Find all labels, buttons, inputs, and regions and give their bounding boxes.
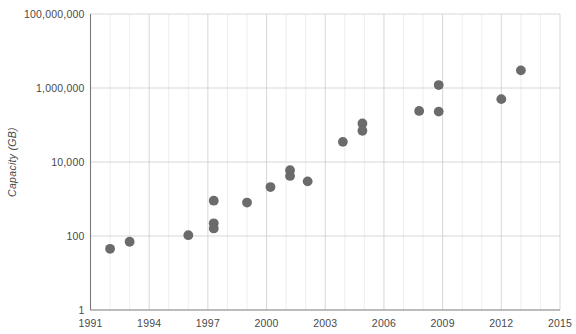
scatter-point (105, 244, 115, 254)
y-axis-tick-labels: 110010,0001,000,000100,000,000 (24, 8, 85, 316)
x-tick-label: 2009 (431, 317, 455, 329)
scatter-point (358, 126, 368, 136)
y-tick-label: 1,000,000 (36, 82, 85, 94)
scatter-point (516, 65, 526, 75)
capacity-scatter-chart: 110010,0001,000,000100,000,000 199119941… (0, 0, 576, 334)
scatter-point (209, 224, 219, 234)
chart-canvas: 110010,0001,000,000100,000,000 199119941… (0, 0, 576, 334)
x-tick-label: 2012 (489, 317, 513, 329)
scatter-point (434, 107, 444, 117)
scatter-point (242, 198, 252, 208)
y-axis-title: Capacity (GB) (6, 127, 18, 197)
x-axis-tick-labels: 199119941997200020032006200920122015 (78, 317, 572, 329)
y-tick-label: 100 (66, 230, 84, 242)
x-tick-label: 2006 (372, 317, 396, 329)
major-gridlines (91, 14, 561, 310)
x-tick-label: 2015 (548, 317, 572, 329)
scatter-point (209, 196, 219, 206)
scatter-point (285, 171, 295, 181)
scatter-point (303, 176, 313, 186)
scatter-point (125, 237, 135, 247)
x-tick-label: 2000 (254, 317, 278, 329)
scatter-point (434, 80, 444, 90)
data-points (105, 65, 526, 253)
x-tick-label: 2003 (313, 317, 337, 329)
x-tick-label: 1997 (196, 317, 220, 329)
scatter-point (183, 230, 193, 240)
scatter-point (414, 106, 424, 116)
scatter-point (266, 182, 276, 192)
y-tick-label: 100,000,000 (24, 8, 85, 20)
y-tick-label: 1 (78, 304, 84, 316)
y-tick-label: 10,000 (51, 156, 84, 168)
x-tick-label: 1994 (137, 317, 161, 329)
scatter-point (338, 137, 348, 147)
x-tick-label: 1991 (78, 317, 102, 329)
scatter-point (496, 94, 506, 104)
